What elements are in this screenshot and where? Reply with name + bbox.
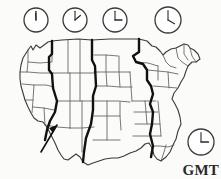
zone-shift-arrow-group (41, 125, 57, 152)
zone-boundaries-group (45, 39, 153, 162)
mountain-clock (63, 8, 87, 32)
state-line-39 (163, 55, 176, 68)
gmt-clock (188, 129, 214, 155)
state-line-38 (168, 72, 169, 88)
state-line-3 (27, 62, 28, 72)
state-line-35 (147, 70, 178, 74)
central-clock (103, 8, 127, 32)
map-outline-group (20, 39, 200, 165)
state-line-2 (20, 72, 53, 73)
state-line-37 (153, 86, 177, 88)
state-line-27 (130, 72, 132, 101)
state-line-25 (120, 102, 121, 130)
timezone-map-svg (0, 0, 221, 179)
state-line-22 (93, 101, 130, 102)
state-line-32 (158, 101, 161, 136)
state-line-8 (44, 108, 45, 125)
state-line-20 (106, 55, 107, 86)
state-line-31 (145, 101, 147, 124)
state-line-5 (32, 85, 34, 113)
state-line-41 (184, 44, 188, 60)
eastern-clock (155, 7, 181, 33)
state-line-4 (22, 84, 54, 87)
central-eastern-boundary (133, 39, 153, 157)
timezone-map-figure: GMT (0, 0, 221, 179)
us-national-border (20, 39, 200, 165)
gmt-label: GMT (183, 163, 219, 178)
state-line-7 (33, 107, 54, 110)
state-line-43 (153, 145, 174, 147)
pacific-clock (24, 8, 48, 32)
state-line-19 (96, 86, 132, 87)
state-line-21 (119, 56, 120, 87)
